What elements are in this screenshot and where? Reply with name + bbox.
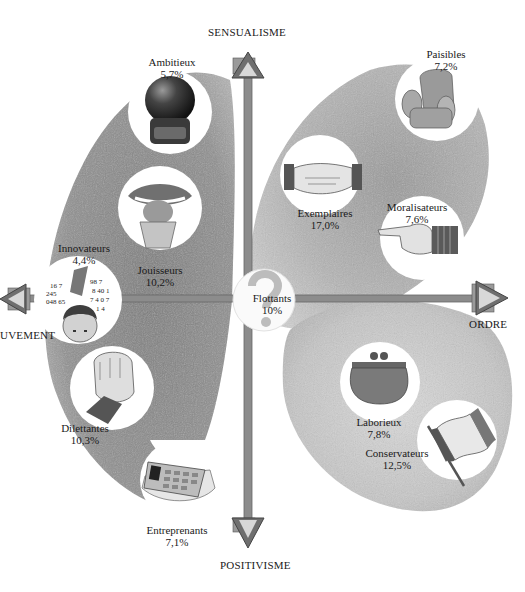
group-pct: 10% — [253, 304, 292, 316]
group-pct: 10,3% — [61, 434, 109, 446]
group-pct: 12,5% — [366, 459, 429, 471]
group-name: Paisibles — [426, 48, 465, 60]
svg-text:048 65: 048 65 — [46, 298, 66, 306]
group-name: Innovateurs — [58, 242, 110, 254]
group-name: Dilettantes — [61, 422, 109, 434]
crystal-ball-icon — [145, 76, 195, 144]
group-label-exemplaires: Exemplaires 17,0% — [298, 207, 353, 231]
circle-dilettantes — [70, 346, 154, 430]
group-label-flottants: Flottants 10% — [253, 292, 292, 316]
group-label-jouisseurs: Jouisseurs 10,2% — [137, 264, 182, 288]
circle-entreprenants — [140, 440, 220, 520]
group-name: Jouisseurs — [137, 264, 182, 276]
group-label-conservateurs: Conservateurs 12,5% — [366, 447, 429, 471]
svg-text:245: 245 — [46, 290, 57, 298]
group-pct: 5,7% — [148, 68, 195, 80]
group-pct: 4,4% — [58, 254, 110, 266]
group-pct: 7,8% — [356, 428, 401, 440]
group-name: Laborieux — [356, 416, 401, 428]
group-name: Ambitieux — [148, 56, 195, 68]
circle-ambitieux — [128, 70, 212, 154]
circle-laborieux — [340, 342, 420, 422]
svg-text:1 4: 1 4 — [96, 305, 105, 313]
circle-jouisseurs — [118, 166, 202, 250]
axis-label-top: SENSUALISME — [208, 26, 286, 38]
group-name: Conservateurs — [366, 447, 429, 459]
group-pct: 7,6% — [387, 213, 447, 225]
group-name: Moralisateurs — [387, 201, 447, 213]
group-label-paisibles: Paisibles 7,2% — [426, 48, 465, 72]
svg-text:16 7: 16 7 — [50, 282, 63, 290]
group-label-moralisateurs: Moralisateurs 7,6% — [387, 201, 447, 225]
group-pct: 17,0% — [298, 219, 353, 231]
group-pct: 10,2% — [137, 276, 182, 288]
group-pct: 7,1% — [146, 536, 207, 548]
group-label-laborieux: Laborieux 7,8% — [356, 416, 401, 440]
axis-label-left: UVEMENT — [0, 329, 55, 341]
group-name: Flottants — [253, 292, 292, 304]
group-label-dilettantes: Dilettantes 10,3% — [61, 422, 109, 446]
group-label-ambitieux: Ambitieux 5,7% — [148, 56, 195, 80]
group-name: Entreprenants — [146, 524, 207, 536]
axis-label-right: ORDRE — [469, 318, 507, 330]
group-name: Exemplaires — [298, 207, 353, 219]
group-label-innovateurs: Innovateurs 4,4% — [58, 242, 110, 266]
svg-text:7 4 0 7: 7 4 0 7 — [90, 296, 110, 304]
group-label-entreprenants: Entreprenants 7,1% — [146, 524, 207, 548]
axis-label-bottom: POSITIVISME — [220, 559, 291, 571]
svg-text:8 40 1: 8 40 1 — [92, 287, 110, 295]
svg-text:98 7: 98 7 — [90, 278, 103, 286]
group-pct: 7,2% — [426, 60, 465, 72]
